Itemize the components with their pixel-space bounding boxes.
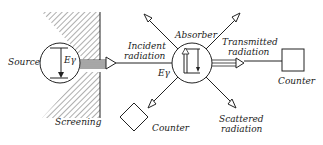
e-gamma-source-label: Eγ xyxy=(64,55,76,65)
diagram: Source Eγ Screening Incident radiation A… xyxy=(0,0,323,145)
incident-label-2: radiation xyxy=(124,51,165,61)
e-gamma-absorber-label: Eγ xyxy=(158,68,170,78)
transmitted-beam xyxy=(212,58,282,68)
counter-bottom-label: Counter xyxy=(152,123,189,133)
counter-right-label: Counter xyxy=(278,76,315,86)
counter-right-box xyxy=(282,49,304,71)
transmitted-label-2: radiation xyxy=(228,47,269,57)
source-label: Source xyxy=(8,57,40,67)
screening-label: Screening xyxy=(55,117,101,127)
incident-label-1: Incident xyxy=(128,41,166,51)
absorber-label: Absorber xyxy=(175,30,217,40)
transmitted-label-1: Transmitted xyxy=(222,37,278,47)
scattered-label-2: radiation xyxy=(221,124,262,134)
counter-bottom-box xyxy=(120,103,148,131)
scattered-label-1: Scattered xyxy=(219,114,264,124)
